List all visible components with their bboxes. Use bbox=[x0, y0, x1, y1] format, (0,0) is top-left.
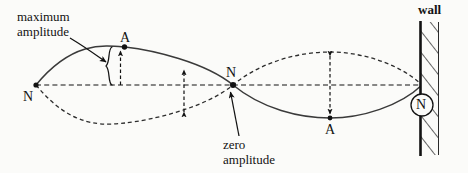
label-node-wall: N bbox=[416, 97, 426, 113]
node-dot-middle bbox=[230, 82, 236, 88]
label-maximum-amplitude: maximum amplitude bbox=[17, 10, 70, 39]
wall-graphic bbox=[421, 21, 439, 156]
label-node-left: N bbox=[23, 89, 33, 105]
label-antinode-left: A bbox=[120, 30, 130, 46]
label-antinode-right: A bbox=[325, 122, 335, 138]
leader-maximum-amplitude bbox=[70, 38, 106, 62]
wave-curve-solid bbox=[36, 46, 422, 118]
label-node-middle: N bbox=[226, 65, 236, 81]
standing-wave-figure: maximum amplitude zero amplitude wall N … bbox=[0, 0, 468, 173]
label-wall: wall bbox=[418, 3, 441, 18]
leader-zero-amplitude bbox=[231, 92, 240, 136]
label-zero-amplitude: zero amplitude bbox=[223, 138, 275, 167]
antinode-dot-right bbox=[328, 116, 333, 121]
node-dot-left bbox=[33, 82, 38, 87]
max-amplitude-brace bbox=[106, 47, 112, 85]
